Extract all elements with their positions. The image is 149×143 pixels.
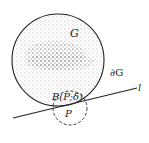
label-line: l [138, 82, 141, 93]
label-point: P [64, 108, 72, 119]
label-g: G [70, 27, 79, 40]
label-boundary: ∂G [110, 67, 123, 78]
diagram: G ∂G l B(P;δ) P [0, 0, 149, 143]
label-ball: B(P;δ) [51, 91, 83, 102]
